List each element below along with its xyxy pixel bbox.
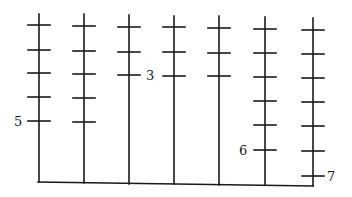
label-six: 6	[239, 143, 247, 158]
label-seven: 7	[327, 169, 335, 184]
label-five: 5	[14, 114, 22, 129]
tally-diagram: 5 3 6 7	[0, 0, 352, 197]
label-three: 3	[146, 68, 154, 83]
diagram-strokes	[28, 14, 324, 186]
base-line	[38, 182, 313, 186]
diagram-canvas: 5 3 6 7	[0, 0, 352, 197]
